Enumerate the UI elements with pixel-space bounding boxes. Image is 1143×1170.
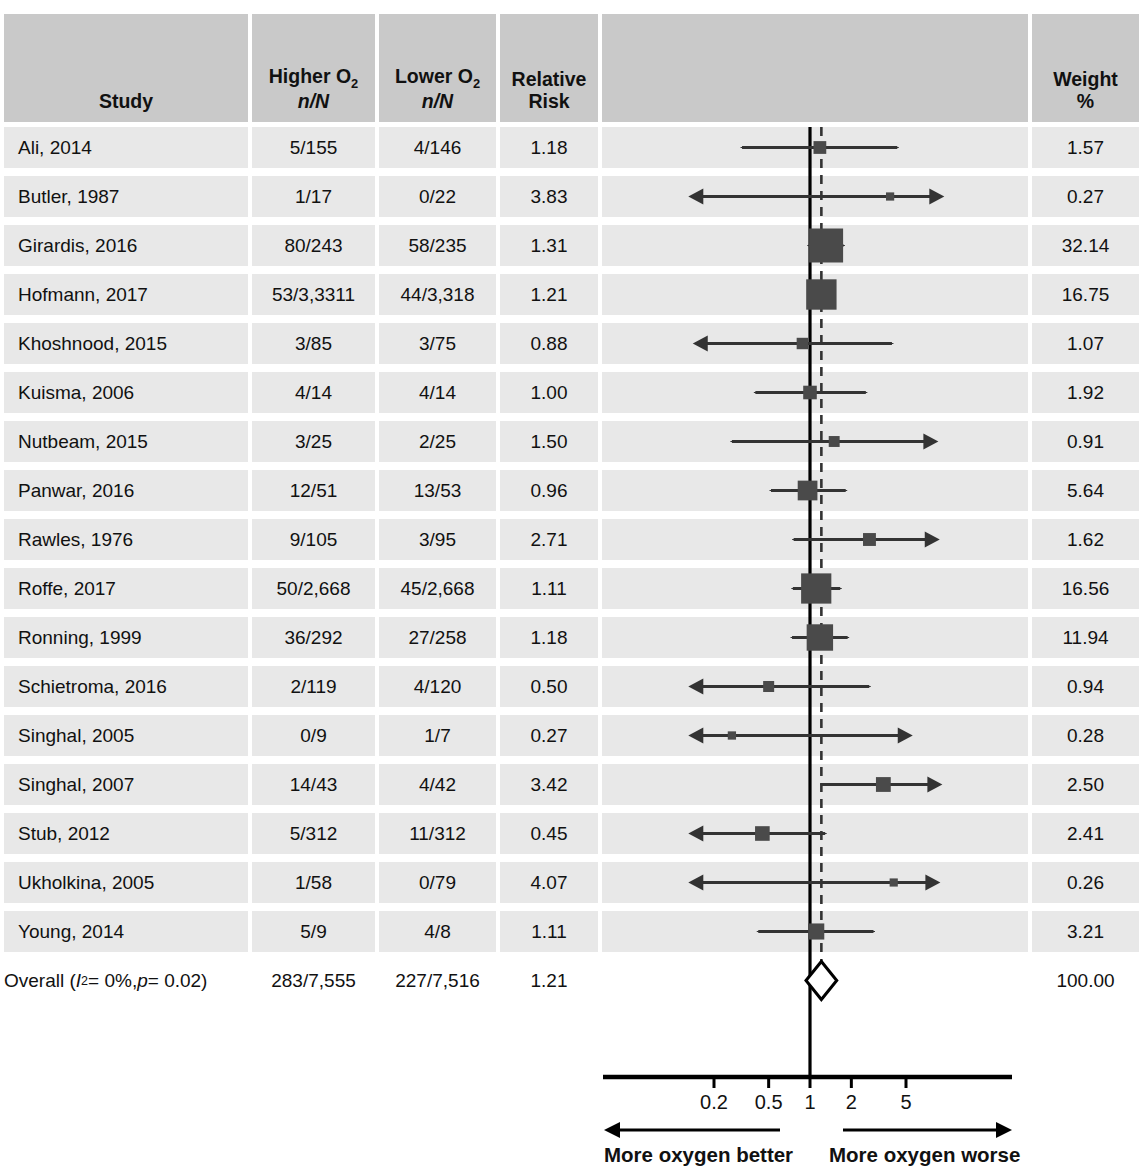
cell-relative-risk: 4.07 xyxy=(500,862,598,903)
header-study: Study xyxy=(4,14,248,122)
cell-relative-risk: 1.00 xyxy=(500,372,598,413)
overall-weight: 100.00 xyxy=(1032,960,1139,1001)
table-row: Schietroma, 20162/1194/1200.500.94 xyxy=(0,666,1143,707)
cell-weight: 5.64 xyxy=(1032,470,1139,511)
header-higher-o2-subscript: 2 xyxy=(351,76,358,91)
header-relative-risk-line2: Risk xyxy=(528,90,569,112)
cell-weight: 0.94 xyxy=(1032,666,1139,707)
cell-relative-risk: 0.96 xyxy=(500,470,598,511)
cell-relative-risk: 2.71 xyxy=(500,519,598,560)
table-row: Khoshnood, 20153/853/750.881.07 xyxy=(0,323,1143,364)
cell-higher-o2: 1/58 xyxy=(252,862,375,903)
cell-lower-o2: 4/8 xyxy=(379,911,496,952)
cell-higher-o2: 9/105 xyxy=(252,519,375,560)
cell-higher-o2: 80/243 xyxy=(252,225,375,266)
row-band-segment xyxy=(602,274,1028,315)
cell-weight: 1.92 xyxy=(1032,372,1139,413)
cell-higher-o2: 36/292 xyxy=(252,617,375,658)
cell-study: Hofmann, 2017 xyxy=(4,274,248,315)
cell-study: Rawles, 1976 xyxy=(4,519,248,560)
cell-lower-o2: 0/22 xyxy=(379,176,496,217)
cell-relative-risk: 1.18 xyxy=(500,127,598,168)
right-direction-label: More oxygen worse xyxy=(829,1143,1020,1167)
cell-lower-o2: 58/235 xyxy=(379,225,496,266)
overall-row: Overall (I2 = 0%, p = 0.02)283/7,555227/… xyxy=(0,960,1143,1001)
cell-higher-o2: 14/43 xyxy=(252,764,375,805)
cell-study: Roffe, 2017 xyxy=(4,568,248,609)
row-band-segment xyxy=(602,127,1028,168)
cell-relative-risk: 1.11 xyxy=(500,911,598,952)
cell-relative-risk: 1.21 xyxy=(500,274,598,315)
cell-study: Singhal, 2007 xyxy=(4,764,248,805)
cell-higher-o2: 5/9 xyxy=(252,911,375,952)
header-relative-risk-line1: Relative xyxy=(512,68,587,90)
overall-p-symbol: p xyxy=(137,970,148,992)
cell-lower-o2: 4/42 xyxy=(379,764,496,805)
cell-relative-risk: 3.42 xyxy=(500,764,598,805)
cell-weight: 0.28 xyxy=(1032,715,1139,756)
overall-lower-o2: 227/7,516 xyxy=(379,960,496,1001)
row-band-segment xyxy=(602,470,1028,511)
row-band-segment xyxy=(602,862,1028,903)
right-direction-arrow-head xyxy=(996,1122,1012,1138)
header-higher-o2-label: Higher O xyxy=(269,65,351,87)
cell-study: Girardis, 2016 xyxy=(4,225,248,266)
table-row: Girardis, 201680/24358/2351.3132.14 xyxy=(0,225,1143,266)
cell-lower-o2: 3/95 xyxy=(379,519,496,560)
cell-relative-risk: 0.27 xyxy=(500,715,598,756)
left-direction-arrow-head xyxy=(604,1122,620,1138)
table-row: Rawles, 19769/1053/952.711.62 xyxy=(0,519,1143,560)
cell-lower-o2: 27/258 xyxy=(379,617,496,658)
table-row: Ukholkina, 20051/580/794.070.26 xyxy=(0,862,1143,903)
row-band-segment xyxy=(602,715,1028,756)
cell-study: Stub, 2012 xyxy=(4,813,248,854)
cell-higher-o2: 1/17 xyxy=(252,176,375,217)
cell-weight: 32.14 xyxy=(1032,225,1139,266)
cell-weight: 2.41 xyxy=(1032,813,1139,854)
cell-relative-risk: 0.45 xyxy=(500,813,598,854)
cell-relative-risk: 1.31 xyxy=(500,225,598,266)
x-axis-tick-label: 0.2 xyxy=(700,1091,728,1114)
overall-prefix: Overall ( xyxy=(4,970,76,992)
overall-label: Overall (I2 = 0%, p = 0.02) xyxy=(4,960,207,1001)
row-band-segment xyxy=(602,421,1028,462)
cell-study: Khoshnood, 2015 xyxy=(4,323,248,364)
cell-higher-o2: 5/312 xyxy=(252,813,375,854)
row-band-segment xyxy=(602,372,1028,413)
header-higher-o2-unit: n/N xyxy=(298,90,329,112)
table-row: Butler, 19871/170/223.830.27 xyxy=(0,176,1143,217)
x-axis-tick-label: 0.5 xyxy=(755,1091,783,1114)
row-band-segment xyxy=(602,617,1028,658)
cell-weight: 1.57 xyxy=(1032,127,1139,168)
header-weight-line1: Weight xyxy=(1053,68,1118,90)
cell-relative-risk: 0.88 xyxy=(500,323,598,364)
overall-relative-risk: 1.21 xyxy=(500,960,598,1001)
row-band-segment xyxy=(602,225,1028,266)
table-row: Nutbeam, 20153/252/251.500.91 xyxy=(0,421,1143,462)
cell-study: Ali, 2014 xyxy=(4,127,248,168)
overall-i-squared-exponent: 2 xyxy=(81,974,88,988)
forest-plot: Study Higher O2 n/N Lower O2 n/N Relativ… xyxy=(0,0,1143,1170)
table-row: Ali, 20145/1554/1461.181.57 xyxy=(0,127,1143,168)
row-band-segment xyxy=(602,323,1028,364)
cell-weight: 1.62 xyxy=(1032,519,1139,560)
cell-higher-o2: 4/14 xyxy=(252,372,375,413)
cell-lower-o2: 44/3,318 xyxy=(379,274,496,315)
row-band-segment xyxy=(602,764,1028,805)
cell-weight: 0.26 xyxy=(1032,862,1139,903)
row-band-segment xyxy=(602,666,1028,707)
cell-higher-o2: 0/9 xyxy=(252,715,375,756)
cell-higher-o2: 5/155 xyxy=(252,127,375,168)
cell-study: Nutbeam, 2015 xyxy=(4,421,248,462)
header-lower-o2: Lower O2 n/N xyxy=(379,14,496,122)
header-lower-o2-subscript: 2 xyxy=(473,76,480,91)
overall-higher-o2: 283/7,555 xyxy=(252,960,375,1001)
header-relative-risk: Relative Risk xyxy=(500,14,598,122)
cell-lower-o2: 2/25 xyxy=(379,421,496,462)
cell-study: Young, 2014 xyxy=(4,911,248,952)
table-row: Young, 20145/94/81.113.21 xyxy=(0,911,1143,952)
header-lower-o2-label: Lower O xyxy=(395,65,473,87)
cell-lower-o2: 4/120 xyxy=(379,666,496,707)
cell-weight: 2.50 xyxy=(1032,764,1139,805)
cell-weight: 16.56 xyxy=(1032,568,1139,609)
